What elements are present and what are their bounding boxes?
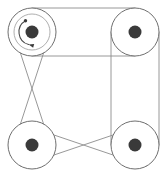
pulley-belt-diagram [0, 0, 168, 177]
pulley-bottom-left[interactable] [8, 121, 56, 169]
pulley-bottom-left-hub [26, 139, 39, 152]
pulley-top-left-hub [26, 26, 39, 39]
rotation-arrow-head-start [24, 19, 27, 22]
pulley-top-right-hub [129, 26, 142, 39]
pulley-bottom-right-hub [129, 139, 142, 152]
pulley-top-left[interactable] [8, 8, 56, 56]
pulley-top-right[interactable] [111, 8, 159, 56]
pulley-bottom-right[interactable] [111, 121, 159, 169]
belt-drive-canvas [0, 0, 168, 177]
